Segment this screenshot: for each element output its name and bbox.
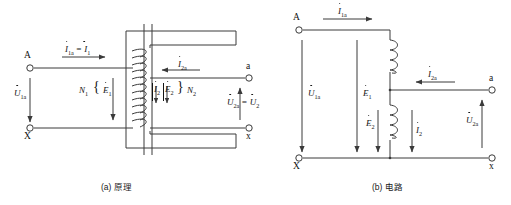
divider-left-I2: [152, 83, 153, 101]
phasor-dot: [167, 81, 169, 83]
phasor-dot: [83, 41, 85, 43]
terminal-label-A-b: A: [293, 12, 300, 22]
caption-panel-a: (a) 原理: [101, 180, 132, 192]
phasor-dot: [429, 66, 431, 68]
terminal-label-a-a: a: [246, 61, 250, 71]
panel-b-coil-upper: [390, 40, 398, 73]
terminal-a-a: [246, 75, 252, 81]
phasor-dot: [365, 85, 367, 87]
label-I1a-eq-I1: I1a= I1: [65, 44, 90, 56]
divider-right-I2: [163, 83, 164, 101]
panel-b-arrows: [302, 19, 482, 152]
phasor-dot: [66, 41, 68, 43]
label-I2a-b: I2a: [428, 69, 437, 81]
label-E1-b: E1: [363, 88, 372, 100]
label-I1a-b: I1a: [338, 6, 347, 18]
label-I2-b: I2: [416, 125, 422, 137]
bottom-node: [389, 157, 392, 160]
phasor-dot: [105, 82, 107, 84]
phasor-dot: [229, 94, 231, 96]
phasor-dot: [251, 94, 253, 96]
terminal-A-b: [296, 27, 302, 33]
terminal-A-a: [27, 65, 33, 71]
panel-a-arrows: [30, 57, 240, 122]
tap-node: [389, 89, 392, 92]
phasor-dot: [155, 81, 157, 83]
terminal-label-a-b: a: [489, 73, 493, 83]
label-U2a-eq-U2: U2a= U2: [227, 97, 259, 109]
terminal-label-x-a: x: [246, 131, 251, 141]
phasor-dot: [310, 85, 312, 87]
brace-primary: {: [93, 79, 100, 95]
phasor-dot: [468, 112, 470, 114]
phasor-dot: [417, 122, 419, 124]
phasor-dot: [179, 56, 181, 58]
caption-panel-b: (b) 电路: [372, 180, 403, 192]
panel-b-coil-lower: [390, 105, 398, 138]
terminal-label-x-b: x: [489, 161, 494, 171]
panel-b-wires: [303, 30, 488, 158]
panel-b-terminal-dots: [296, 27, 495, 161]
label-I2a-a: I2a: [178, 59, 187, 71]
phasor-dot: [339, 3, 341, 5]
label-E2-a: E2: [165, 84, 174, 96]
terminal-label-X-a: X: [24, 131, 31, 141]
label-N1: N1: [79, 85, 88, 97]
terminal-label-A-a: A: [24, 50, 31, 60]
label-N2: N2: [187, 85, 196, 97]
label-U1a-b: U1a: [308, 88, 320, 100]
label-E1-a: E1: [103, 85, 112, 97]
label-I2-a: I2: [154, 84, 160, 96]
brace-secondary: }: [177, 79, 184, 95]
label-U1a-a: U1a: [14, 88, 26, 100]
phasor-dot: [16, 85, 18, 87]
phasor-dot: [368, 115, 370, 117]
terminal-a-b: [489, 87, 495, 93]
terminal-label-X-b: X: [293, 161, 300, 171]
autotransformer-figure: A X a x I1a= I1 U1a N1 { E1 I2a I2 E2 } …: [0, 0, 511, 205]
label-E2-b: E2: [366, 118, 375, 130]
label-U2a-b: U2a: [466, 115, 478, 127]
